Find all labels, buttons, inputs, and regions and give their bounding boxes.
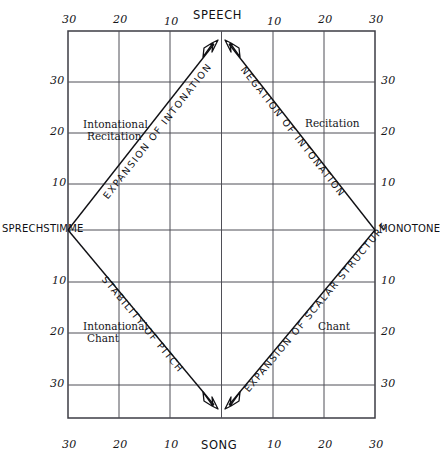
- tick-top-10-left: 10: [164, 15, 179, 28]
- pole-label-sprechstimme: SPRECHSTIMME: [2, 223, 84, 234]
- tick-bottom-10-left: 10: [164, 438, 179, 451]
- tick-right-20-upper: 20: [381, 125, 396, 138]
- pole-label-song: SONG: [201, 438, 237, 452]
- tick-right-30-upper: 30: [381, 74, 396, 87]
- annotation-intonational-chant-line2: Chant: [83, 332, 148, 344]
- tick-left-10-upper: 10: [52, 176, 67, 189]
- tick-right-10-upper: 10: [381, 176, 396, 189]
- tick-right-10-lower: 10: [381, 274, 396, 287]
- tick-left-20-upper: 20: [50, 125, 65, 138]
- annotation-intonational-recitation-line2: Recitation: [83, 130, 148, 142]
- annotation-recitation-line1: Recitation: [305, 117, 360, 129]
- annotation-chant-line1: Chant: [318, 320, 350, 332]
- tick-bottom-20-right: 20: [318, 438, 333, 451]
- tick-top-30-right: 30: [369, 13, 384, 26]
- annotation-intonational-recitation-line1: Intonational: [83, 118, 148, 130]
- annotation-intonational-recitation: Intonational Recitation: [83, 118, 148, 142]
- tick-right-20-lower: 20: [381, 325, 396, 338]
- tick-top-20-left: 20: [113, 13, 128, 26]
- tick-bottom-20-left: 20: [113, 438, 128, 451]
- tick-bottom-30-left: 30: [62, 438, 77, 451]
- tick-bottom-30-right: 30: [369, 438, 384, 451]
- tick-left-30-lower: 30: [50, 377, 65, 390]
- annotation-recitation: Recitation: [305, 117, 360, 129]
- annotation-intonational-chant: Intonational Chant: [83, 320, 148, 344]
- tick-left-10-lower: 10: [52, 274, 67, 287]
- tick-top-30-left: 30: [62, 13, 77, 26]
- tick-left-20-lower: 20: [50, 325, 65, 338]
- annotation-chant: Chant: [318, 320, 350, 332]
- tick-right-30-lower: 30: [381, 377, 396, 390]
- tick-bottom-10-right: 10: [267, 438, 282, 451]
- tick-top-10-right: 10: [267, 15, 282, 28]
- tick-top-20-right: 20: [318, 13, 333, 26]
- vertical-gridlines: [119, 31, 324, 418]
- tick-left-30-upper: 30: [50, 74, 65, 87]
- annotation-intonational-chant-line1: Intonational: [83, 320, 148, 332]
- pole-label-speech: SPEECH: [193, 8, 242, 22]
